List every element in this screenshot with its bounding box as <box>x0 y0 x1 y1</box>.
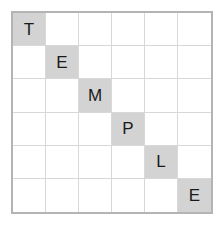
cell-letter: M <box>88 86 102 103</box>
grid-cell-empty[interactable] <box>112 79 145 112</box>
cell-letter: L <box>156 153 165 170</box>
grid-cell-empty[interactable] <box>79 179 112 212</box>
puzzle-grid: TEMPLE <box>11 11 213 214</box>
grid-cell-empty[interactable] <box>46 179 79 212</box>
grid-cell-empty[interactable] <box>79 113 112 146</box>
grid-cell-empty[interactable] <box>46 113 79 146</box>
grid-cell-empty[interactable] <box>46 146 79 179</box>
grid-cell-empty[interactable] <box>13 46 46 79</box>
grid-cell-empty[interactable] <box>112 46 145 79</box>
grid-cell-empty[interactable] <box>13 79 46 112</box>
grid-cell-empty[interactable] <box>13 146 46 179</box>
grid-cell-filled[interactable]: M <box>79 79 112 112</box>
grid-cell-empty[interactable] <box>178 146 211 179</box>
grid-cell-filled[interactable]: T <box>13 13 46 46</box>
grid-cell-filled[interactable]: P <box>112 113 145 146</box>
grid-cell-empty[interactable] <box>79 146 112 179</box>
grid-cell-empty[interactable] <box>178 79 211 112</box>
grid-cell-empty[interactable] <box>178 113 211 146</box>
grid-cell-empty[interactable] <box>178 13 211 46</box>
grid-cell-filled[interactable]: E <box>46 46 79 79</box>
grid-cell-empty[interactable] <box>112 13 145 46</box>
grid-cell-empty[interactable] <box>46 13 79 46</box>
grid-cell-empty[interactable] <box>145 79 178 112</box>
grid-cell-empty[interactable] <box>13 179 46 212</box>
grid-cell-empty[interactable] <box>79 13 112 46</box>
grid-cell-filled[interactable]: L <box>145 146 178 179</box>
cell-letter: T <box>24 20 34 37</box>
grid-cell-empty[interactable] <box>13 113 46 146</box>
grid-cell-empty[interactable] <box>79 46 112 79</box>
grid-cell-empty[interactable] <box>112 179 145 212</box>
cell-letter: E <box>189 186 200 203</box>
grid-cell-empty[interactable] <box>112 146 145 179</box>
grid-cell-empty[interactable] <box>46 79 79 112</box>
grid-cell-empty[interactable] <box>145 113 178 146</box>
cell-letter: E <box>56 53 67 70</box>
letter-grid-puzzle: TEMPLE <box>0 0 224 227</box>
grid-cell-filled[interactable]: E <box>178 179 211 212</box>
grid-cell-empty[interactable] <box>145 46 178 79</box>
cell-letter: P <box>122 120 133 137</box>
grid-cell-empty[interactable] <box>145 179 178 212</box>
grid-cell-empty[interactable] <box>145 13 178 46</box>
grid-cell-empty[interactable] <box>178 46 211 79</box>
